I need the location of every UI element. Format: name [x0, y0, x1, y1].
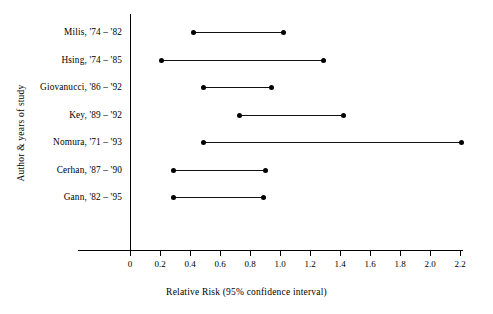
x-axis-tick-label: 2.0	[424, 259, 435, 269]
confidence-interval-line	[174, 197, 264, 198]
x-axis-tick	[250, 250, 251, 256]
x-axis-tick	[430, 250, 431, 256]
x-axis-tick-label: 2.2	[454, 259, 465, 269]
interval-upper-point	[321, 58, 326, 63]
study-label: Nomura, '71 – '93	[53, 137, 122, 147]
x-axis-tick	[220, 250, 221, 256]
interval-lower-point	[171, 168, 176, 173]
interval-upper-point	[459, 140, 464, 145]
plot-area: 00.20.40.60.81.01.21.41.61.82.02.2	[130, 14, 463, 250]
x-axis-tick-label: 1.6	[364, 259, 375, 269]
x-axis-tick-label: 0	[128, 259, 133, 269]
interval-upper-point	[269, 85, 274, 90]
study-label: Giovanucci, '86 – '92	[40, 82, 122, 92]
y-axis-line	[130, 14, 131, 250]
interval-lower-point	[201, 140, 206, 145]
confidence-interval-line	[204, 142, 462, 143]
x-axis-tick-label: 0.8	[244, 259, 255, 269]
x-axis-tick-label: 1.8	[394, 259, 405, 269]
x-axis-tick	[400, 250, 401, 256]
study-label: Gann, '82 – '95	[64, 192, 122, 202]
forest-plot-chart: Author & years of study Milis, '74 – '82…	[0, 0, 493, 314]
x-axis-tick	[190, 250, 191, 256]
interval-upper-point	[281, 30, 286, 35]
x-axis-line	[78, 250, 463, 251]
interval-upper-point	[261, 195, 266, 200]
confidence-interval-line	[240, 115, 344, 116]
x-axis-title: Relative Risk (95% confidence interval)	[0, 287, 493, 297]
interval-lower-point	[191, 30, 196, 35]
study-label: Milis, '74 – '82	[64, 27, 122, 37]
x-axis-tick	[370, 250, 371, 256]
interval-upper-point	[341, 113, 346, 118]
study-label: Hsing, '74 – '85	[61, 55, 122, 65]
x-axis-tick	[310, 250, 311, 256]
confidence-interval-line	[162, 60, 324, 61]
x-axis-tick-label: 1.4	[334, 259, 345, 269]
x-axis-tick-label: 1.2	[304, 259, 315, 269]
interval-lower-point	[237, 113, 242, 118]
interval-lower-point	[171, 195, 176, 200]
x-axis-tick	[460, 250, 461, 256]
interval-lower-point	[201, 85, 206, 90]
x-axis-tick	[130, 250, 131, 256]
y-axis-category-labels: Milis, '74 – '82Hsing, '74 – '85Giovanuc…	[0, 14, 122, 250]
x-axis-tick	[160, 250, 161, 256]
study-label: Cerhan, '87 – '90	[57, 165, 122, 175]
x-axis-tick	[340, 250, 341, 256]
interval-upper-point	[263, 168, 268, 173]
confidence-interval-line	[204, 87, 272, 88]
x-axis-tick-label: 0.6	[214, 259, 225, 269]
study-label: Key, '89 – '92	[69, 110, 122, 120]
interval-lower-point	[159, 58, 164, 63]
x-axis-tick-label: 0.4	[184, 259, 195, 269]
confidence-interval-line	[174, 170, 266, 171]
confidence-interval-line	[193, 32, 283, 33]
x-axis-tick-label: 1.0	[274, 259, 285, 269]
x-axis-tick-label: 0.2	[154, 259, 165, 269]
x-axis-tick	[280, 250, 281, 256]
